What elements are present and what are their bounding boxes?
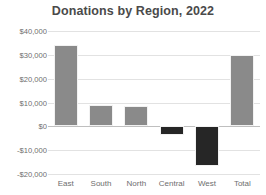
x-axis-tick-label: East xyxy=(58,179,74,188)
bar-slot xyxy=(119,31,154,174)
bar xyxy=(230,55,254,127)
y-axis-tick-label: $40,000 xyxy=(0,27,47,36)
y-axis-tick-label: $10,000 xyxy=(0,98,47,107)
y-axis-tick-label: $20,000 xyxy=(0,74,47,83)
y-axis-tick-label: -$10,000 xyxy=(0,146,47,155)
bar xyxy=(124,106,148,126)
bar-slot xyxy=(83,31,118,174)
x-axis-tick-label: South xyxy=(91,179,112,188)
chart-container: Donations by Region, 2022 $40,000$30,000… xyxy=(0,0,266,195)
y-axis-tick-label: $0 xyxy=(0,122,47,131)
plot-area: $40,000$30,000$20,000$10,000$0-$10,000-$… xyxy=(48,31,260,174)
gridline xyxy=(48,174,260,175)
bar xyxy=(89,105,113,126)
bar-slot xyxy=(154,31,189,174)
x-axis-tick-label: West xyxy=(198,179,216,188)
y-axis-tick-label: -$20,000 xyxy=(0,170,47,179)
y-axis-tick-label: $30,000 xyxy=(0,50,47,59)
x-axis-tick-label: North xyxy=(127,179,147,188)
bar xyxy=(195,126,219,166)
bar-series xyxy=(48,31,260,174)
x-axis-tick-label: Total xyxy=(234,179,251,188)
chart-title: Donations by Region, 2022 xyxy=(0,4,266,18)
bar-slot xyxy=(48,31,83,174)
bar-slot xyxy=(189,31,224,174)
bar xyxy=(160,126,184,135)
bar-slot xyxy=(225,31,260,174)
bar xyxy=(54,45,78,126)
x-axis-tick-label: Central xyxy=(159,179,185,188)
